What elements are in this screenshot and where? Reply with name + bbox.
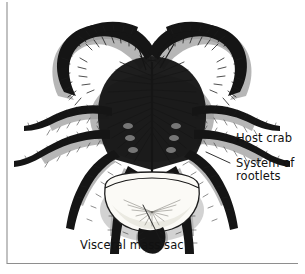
label-visceral-mass-sac: Visceral mass sac [80,238,184,252]
label-system-of-rootlets-line2: rootlets [236,169,281,183]
label-system-of-rootlets-line1: System of [236,156,295,170]
label-host-crab: Host crab [236,131,292,145]
crab-illustration: Host crab System of rootlets Visceral ma… [0,0,305,274]
figure-container: Host crab System of rootlets Visceral ma… [0,0,305,274]
